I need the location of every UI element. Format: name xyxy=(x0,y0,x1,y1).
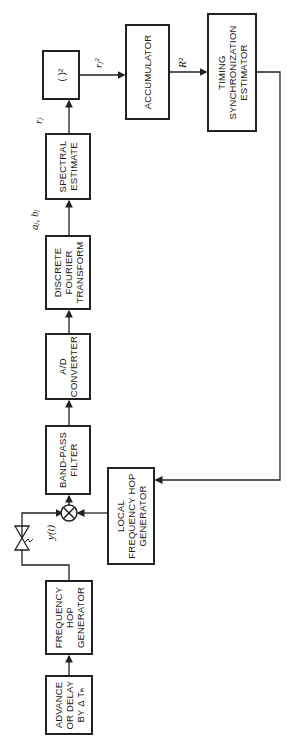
block-label: SPECTRAL ESTIMATE xyxy=(57,141,79,193)
ad-converter-block: A/D CONVERTER xyxy=(45,333,91,400)
accumulator-block: ACCUMULATOR xyxy=(125,24,170,120)
signal-ab-label: aⱼ, bⱼ xyxy=(28,210,41,231)
spectral-estimate-block: SPECTRAL ESTIMATE xyxy=(45,133,91,200)
signal-y-label: y(t) xyxy=(44,525,56,540)
local-frequency-hop-generator-block: LOCAL FREQUENCY HOP GENERATOR xyxy=(107,467,155,565)
mixer-icon xyxy=(61,505,77,521)
block-label: ACCUMULATOR xyxy=(142,35,153,110)
square-block: ( )² xyxy=(42,50,80,100)
block-label: A/D CONVERTER xyxy=(57,336,79,397)
block-label: DISCRETE FOURIER TRANSFORM xyxy=(52,242,85,304)
block-label: BAND-PASS FILTER xyxy=(57,432,79,488)
timing-sync-estimator-block: TIMING SYNCHRONIZATION ESTIMATOR xyxy=(207,13,257,132)
antenna-icons xyxy=(15,526,33,550)
frequency-hop-generator-block: FREQUENCY HOP GENERATOR xyxy=(45,580,93,655)
block-label: TIMING SYNCHRONIZATION ESTIMATOR xyxy=(216,25,249,119)
signal-R2-label: R² xyxy=(176,58,188,68)
advance-delay-block: ADVANCE OR DELAY BY Δ Tₕ xyxy=(45,675,93,735)
signal-r-label: rⱼ xyxy=(32,118,45,124)
block-diagram: ADVANCE OR DELAY BY Δ Tₕ FREQUENCY HOP G… xyxy=(0,0,294,740)
block-label: LOCAL FREQUENCY HOP GENERATOR xyxy=(115,473,148,558)
signal-r2-label: rⱼ² xyxy=(92,58,105,68)
block-label: ( )² xyxy=(56,69,67,82)
block-label: ADVANCE OR DELAY BY Δ Tₕ xyxy=(53,681,86,730)
band-pass-filter-block: BAND-PASS FILTER xyxy=(45,425,91,495)
block-label: FREQUENCY HOP GENERATOR xyxy=(53,587,86,648)
dft-block: DISCRETE FOURIER TRANSFORM xyxy=(45,235,91,310)
